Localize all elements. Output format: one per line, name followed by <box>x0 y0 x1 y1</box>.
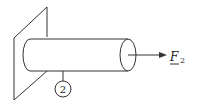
bar-diagram: F 2 2 <box>0 0 200 108</box>
force-label: F <box>169 50 179 64</box>
force-subscript: 2 <box>180 56 185 65</box>
node-label: 2 <box>60 84 66 95</box>
diagram: F 2 2 <box>0 0 200 108</box>
cylinder-bar <box>23 39 136 71</box>
